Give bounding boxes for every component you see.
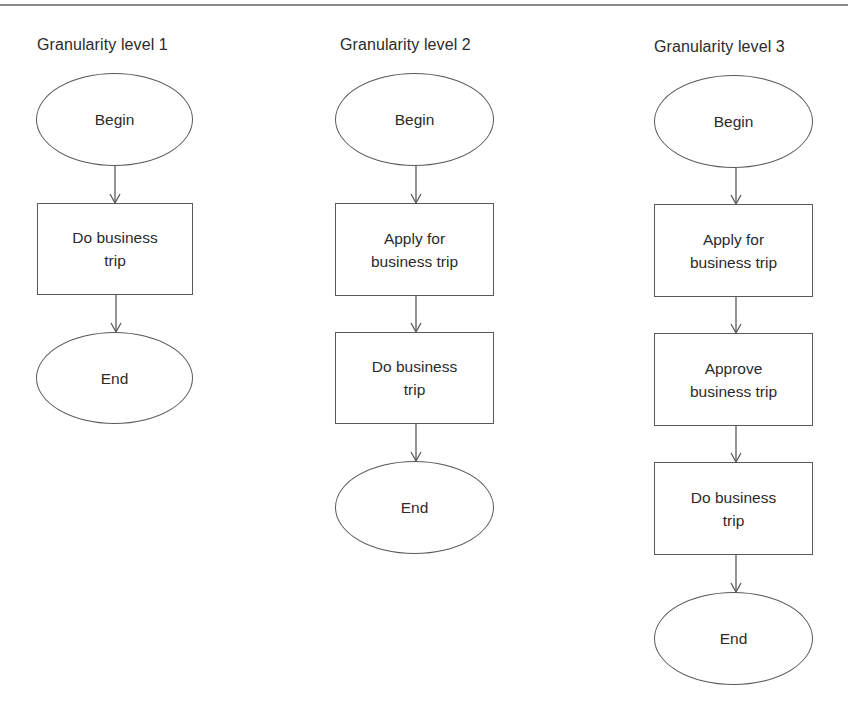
col2-end-node: End xyxy=(335,461,494,554)
col1-do-business-trip-node: Do business trip xyxy=(37,203,193,295)
col1-end-node: End xyxy=(36,332,193,424)
col3-approve-node: Approve business trip xyxy=(654,333,813,426)
column-2-title: Granularity level 2 xyxy=(340,36,471,54)
col1-begin-label: Begin xyxy=(95,108,135,131)
col1-begin-node: Begin xyxy=(36,73,193,166)
col2-begin-label: Begin xyxy=(395,108,435,131)
col3-end-label: End xyxy=(720,627,748,650)
col1-do-business-trip-label: Do business trip xyxy=(72,226,157,272)
col3-apply-label: Apply for business trip xyxy=(690,228,777,274)
arrow-icon xyxy=(731,555,741,592)
col3-do-business-trip-node: Do business trip xyxy=(654,462,813,555)
column-3-title: Granularity level 3 xyxy=(654,38,785,56)
col3-begin-label: Begin xyxy=(714,110,754,133)
arrow-icon xyxy=(411,296,421,332)
arrow-icon xyxy=(411,424,421,461)
arrow-icon xyxy=(731,297,741,333)
top-border-rule xyxy=(0,4,848,6)
col2-apply-label: Apply for business trip xyxy=(371,227,458,273)
arrow-icon xyxy=(111,295,121,332)
col3-begin-node: Begin xyxy=(654,75,813,168)
column-1-title: Granularity level 1 xyxy=(37,36,168,54)
col1-end-label: End xyxy=(101,367,129,390)
col2-begin-node: Begin xyxy=(335,73,494,166)
col3-approve-label: Approve business trip xyxy=(690,357,777,403)
col2-do-business-trip-node: Do business trip xyxy=(335,332,494,424)
col2-do-business-trip-label: Do business trip xyxy=(372,355,457,401)
col2-end-label: End xyxy=(401,496,429,519)
arrow-icon xyxy=(110,166,120,203)
col3-do-business-trip-label: Do business trip xyxy=(691,486,776,532)
col3-end-node: End xyxy=(654,592,813,685)
arrow-icon xyxy=(731,426,741,462)
arrow-icon xyxy=(731,168,741,204)
col2-apply-node: Apply for business trip xyxy=(335,203,494,296)
arrow-icon xyxy=(411,166,421,203)
col3-apply-node: Apply for business trip xyxy=(654,204,813,297)
